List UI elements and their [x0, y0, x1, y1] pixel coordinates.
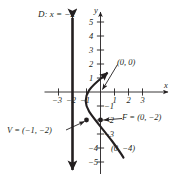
parabola-upper-arrow [102, 73, 108, 78]
x-axis-label: x [164, 81, 168, 90]
y-axis-label: y [94, 6, 98, 15]
x-tick-label--2: −2 [66, 96, 76, 105]
y-tick-label--5: −5 [88, 158, 98, 167]
origin-leader-line [103, 65, 118, 90]
y-tick-label-3: 3 [89, 46, 93, 55]
y-tick-label-1: 1 [89, 74, 93, 83]
x-axis [45, 88, 169, 95]
directrix-label: D: x = −2 [38, 10, 75, 19]
y-tick-label-2: 2 [89, 60, 93, 69]
y-tick-label--1: −1 [104, 102, 114, 111]
y-tick-label-5: 5 [89, 18, 93, 27]
x-tick-label-2: 2 [127, 96, 131, 105]
x-tick-label--1: −1 [80, 96, 90, 105]
vertex-point-marker [84, 118, 89, 123]
y-tick-label--4: −4 [88, 144, 98, 153]
x-tick-label--3: −3 [52, 96, 62, 105]
lower-point-label: (0, −4) [111, 144, 135, 153]
origin-point-label: (0, 0) [117, 58, 135, 67]
parabola-figure [0, 0, 181, 180]
focus-point-marker [98, 118, 103, 123]
x-tick-label-3: 3 [141, 96, 145, 105]
focus-label: F = (0, −2) [122, 113, 161, 122]
y-tick-label--2: −2 [104, 116, 114, 125]
vertex-leader-line [66, 122, 85, 131]
vertex-label: V = (−1, −2) [7, 126, 52, 135]
y-tick-label-4: 4 [89, 32, 93, 41]
y-tick-label--3: −3 [104, 130, 114, 139]
